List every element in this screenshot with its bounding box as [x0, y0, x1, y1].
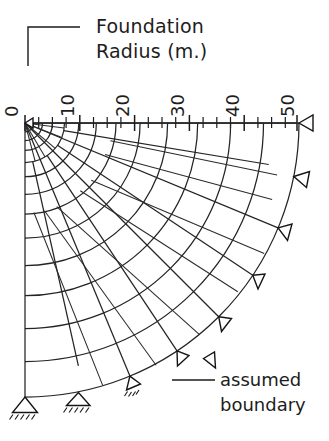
finite-element-mesh — [25, 123, 299, 397]
support-56deg — [177, 351, 189, 366]
axis-tick-label-50: 50 — [277, 94, 298, 117]
foundation-mesh-figure: Foundation Radius (m.) 0 10 20 30 40 50 — [0, 0, 329, 441]
support-11deg — [294, 172, 310, 188]
title-leader-line — [28, 27, 80, 66]
support-68deg — [125, 376, 141, 396]
support-45deg — [219, 317, 232, 332]
support-hatch-90 — [10, 415, 36, 420]
axis-tick-label-40: 40 — [222, 94, 243, 117]
support-34deg — [253, 274, 265, 289]
support-0deg — [299, 115, 313, 131]
axis-tick-label-30: 30 — [167, 94, 188, 117]
annotation-line1: assumed — [220, 369, 301, 390]
axis-tick-label-20: 20 — [112, 94, 133, 117]
annotation-line2: boundary — [220, 394, 306, 415]
figure-title-line1: Foundation — [96, 15, 204, 37]
support-hatch-68 — [125, 390, 140, 397]
axis-tick-label-0: 0 — [1, 106, 22, 117]
axis-tick-labels: 0 10 20 30 40 50 — [1, 94, 298, 117]
support-90deg — [10, 397, 38, 420]
mesh-drawing: Foundation Radius (m.) 0 10 20 30 40 50 — [0, 0, 329, 441]
support-22deg — [278, 224, 292, 241]
support-62deg — [204, 352, 216, 368]
figure-title-line2: Radius (m.) — [96, 40, 207, 62]
support-79deg — [64, 393, 91, 413]
support-hatch-79 — [64, 408, 90, 413]
axis-tick-label-10: 10 — [57, 94, 78, 117]
